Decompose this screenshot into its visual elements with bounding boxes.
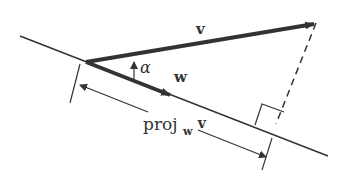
proj-end-bar-right [262,138,272,170]
projection-diagram: v w α proj w v [0,0,348,191]
label-v: v [195,20,206,38]
proj-arrow-right [198,130,266,157]
label-w: w [173,68,188,86]
label-alpha: α [140,58,151,77]
perpendicular-dashed [276,23,316,124]
label-proj-sub: w [182,125,193,138]
label-proj-vec: v [197,115,207,131]
vector-w [86,62,170,95]
label-proj: proj w v [143,114,207,139]
proj-end-bar-left [70,64,80,103]
label-proj-text: proj [143,114,178,134]
base-line [20,36,328,156]
proj-arrow-left [80,85,148,112]
